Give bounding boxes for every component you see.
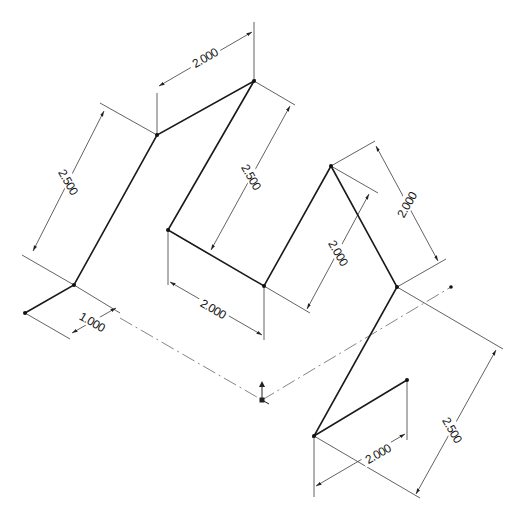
vertex-point[interactable] — [155, 133, 159, 137]
dimension-label-d9[interactable]: 2.500 — [437, 411, 467, 448]
dimension-lines — [33, 32, 496, 494]
drawing-canvas[interactable]: 2.000 2.500 1.000 2.500 2.000 2.000 2.00… — [0, 0, 528, 530]
vertex-point[interactable] — [405, 378, 409, 382]
centerline-x — [120, 318, 262, 400]
extension-lines — [22, 22, 503, 498]
centerline-endpoint[interactable] — [449, 285, 453, 289]
dimension-labels: 2.000 2.500 1.000 2.500 2.000 2.000 2.00… — [53, 43, 467, 469]
vertex-point[interactable] — [329, 164, 333, 168]
vertex-point[interactable] — [252, 79, 256, 83]
dimension-label-d3[interactable]: 1.000 — [76, 308, 109, 336]
vertex-point[interactable] — [395, 285, 399, 289]
dimension-label-d1[interactable]: 2.000 — [186, 43, 223, 73]
vertex-point[interactable] — [23, 311, 27, 315]
origin-icon[interactable] — [259, 381, 269, 404]
dimension-label-d2[interactable]: 2.500 — [53, 163, 83, 200]
vertex-point[interactable] — [166, 228, 170, 232]
dimension-label-d8[interactable]: 2.000 — [359, 439, 396, 469]
centerline-z — [262, 287, 451, 400]
dimension-label-d6[interactable]: 2.000 — [323, 234, 353, 271]
vertex-point[interactable] — [262, 284, 266, 288]
dimension-label-d4[interactable]: 2.500 — [236, 158, 266, 195]
dimension-label-d5[interactable]: 2.000 — [195, 294, 232, 324]
dimension-label-d7[interactable]: 2.000 — [392, 186, 422, 223]
vertex-point[interactable] — [312, 434, 316, 438]
vertex-point[interactable] — [72, 283, 76, 287]
